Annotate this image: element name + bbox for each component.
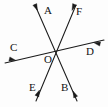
point-label-e: E <box>29 82 36 93</box>
arrowhead-toward-a <box>33 4 40 12</box>
point-label-b: B <box>61 82 68 93</box>
point-label-c: C <box>10 42 17 53</box>
arrowhead-toward-b <box>71 90 78 98</box>
point-label-d: D <box>86 46 94 57</box>
line-e-f <box>36 5 76 101</box>
geometry-figure: A F C D O E B <box>0 0 108 107</box>
point-label-a: A <box>44 5 52 16</box>
point-label-f: F <box>76 6 82 17</box>
point-label-o: O <box>44 54 52 65</box>
